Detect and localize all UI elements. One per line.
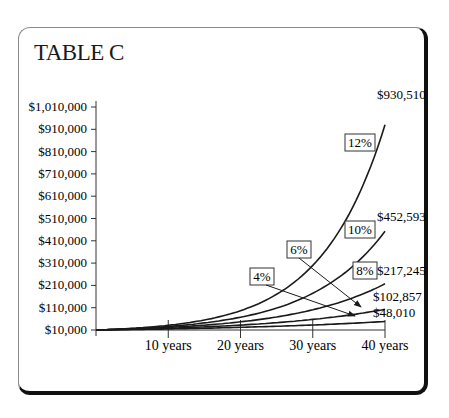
y-tick-label: $210,000 bbox=[38, 277, 87, 292]
end-value-label: $48,010 bbox=[373, 305, 415, 320]
pct-label: 12% bbox=[348, 135, 372, 150]
y-tick-label: $410,000 bbox=[38, 233, 87, 248]
y-tick-label: $810,000 bbox=[38, 144, 87, 159]
y-tick-label: $1,010,000 bbox=[29, 99, 88, 114]
y-tick-label: $910,000 bbox=[38, 121, 87, 136]
x-tick-label: 10 years bbox=[145, 338, 192, 353]
x-tick-label: 40 years bbox=[361, 338, 408, 353]
y-tick-label: $10,000 bbox=[45, 322, 87, 337]
y-tick-label: $710,000 bbox=[38, 166, 87, 181]
x-tick-label: 30 years bbox=[289, 338, 336, 353]
pct-label: 6% bbox=[290, 242, 308, 257]
series-line-10pct bbox=[96, 231, 385, 330]
pct-label: 8% bbox=[356, 263, 374, 278]
pct-label: 10% bbox=[348, 222, 372, 237]
y-tick-label: $510,000 bbox=[38, 211, 87, 226]
arrow-4pct bbox=[266, 285, 355, 316]
series-line-12pct bbox=[96, 125, 385, 330]
y-tick-label: $310,000 bbox=[38, 255, 87, 270]
y-tick-label: $610,000 bbox=[38, 188, 87, 203]
y-tick-label: $110,000 bbox=[39, 300, 87, 315]
line-chart: $10,000$110,000$210,000$310,000$410,000$… bbox=[0, 0, 449, 418]
end-value-label: $452,593 bbox=[377, 209, 426, 224]
end-value-label: $930,510 bbox=[377, 87, 426, 102]
end-value-label: $102,857 bbox=[373, 289, 422, 304]
x-tick-label: 20 years bbox=[217, 338, 264, 353]
pct-label: 4% bbox=[253, 269, 271, 284]
end-value-label: $217,245 bbox=[377, 263, 426, 278]
